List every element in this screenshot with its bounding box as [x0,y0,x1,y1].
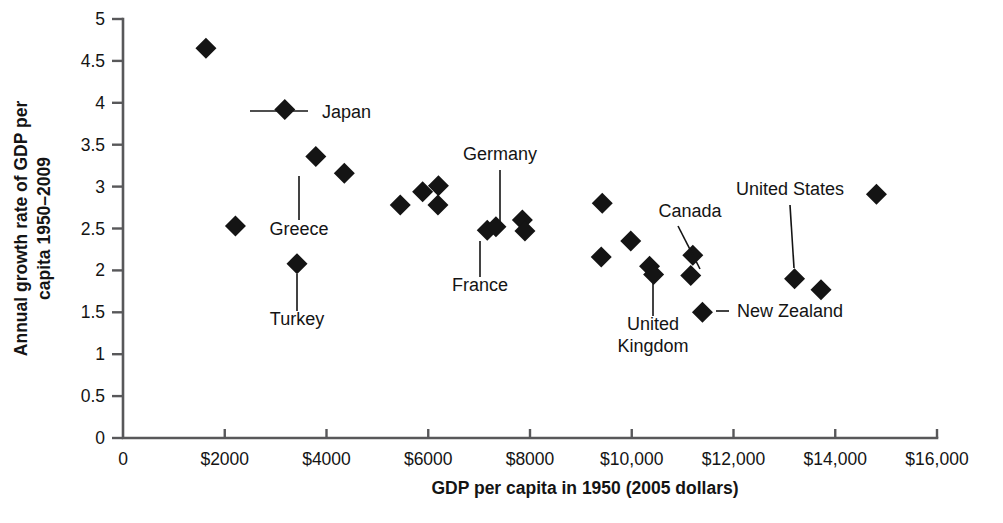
y-tick-label: 1 [95,344,105,364]
y-tick-label: 4 [95,93,105,113]
y-tick-label: 5 [95,9,105,29]
y-tick-label: 0 [95,428,105,448]
x-tick-label: $14,000 [804,449,868,469]
scatter-chart-figure: 00.511.522.533.544.550$2000$4000$6000$80… [0,0,1003,523]
data-point-marker [692,302,713,323]
y-tick-label: 4.5 [81,51,105,71]
x-tick-label: $16,000 [905,449,969,469]
x-tick-label: 0 [118,449,128,469]
data-point-marker [225,215,246,236]
annotation-label: Kingdom [617,336,688,356]
data-point-marker [305,146,326,167]
point-annotations-group: JapanGreeceTurkeyGermanyFranceCanadaUnit… [250,102,844,356]
data-point-marker [784,268,805,289]
annotation-label: Greece [269,219,328,239]
data-point-marker [680,265,701,286]
chart-canvas: 00.511.522.533.544.550$2000$4000$6000$80… [0,0,1003,523]
annotation-label: Japan [322,102,371,122]
y-tick-label: 3.5 [81,135,105,155]
data-point-marker [195,38,216,59]
data-point-marker [592,193,613,214]
data-point-marker [866,184,887,205]
y-tick-label: 0.5 [81,386,105,406]
x-tick-label: $12,000 [702,449,766,469]
annotation-leader-line [790,205,794,268]
annotation-label: United States [736,179,844,199]
data-point-marker [390,195,411,216]
y-tick-label: 2 [95,260,105,280]
data-point-marker [620,231,641,252]
annotation-label: Turkey [270,309,324,329]
y-tick-label: 2.5 [81,219,105,239]
data-point-marker [811,279,832,300]
annotation-leader-line [678,226,700,269]
data-point-marker [334,163,355,184]
data-point-marker [427,195,448,216]
annotation-label: New Zealand [737,301,843,321]
data-point-marker [286,253,307,274]
y-tick-label: 3 [95,177,105,197]
annotation-label: France [452,275,508,295]
y-axis-title-line-2: capita 1950–2009 [34,157,54,300]
annotation-label: Canada [658,201,722,221]
x-tick-label: $10,000 [600,449,664,469]
x-tick-label: $6000 [404,449,453,469]
x-tick-label: $8000 [506,449,555,469]
y-axis-title-line-1: Annual growth rate of GDP per [11,101,31,357]
x-tick-label: $2000 [200,449,249,469]
data-point-marker [274,99,295,120]
y-tick-label: 1.5 [81,302,105,322]
x-tick-label: $4000 [302,449,351,469]
annotation-label: United [627,314,679,334]
data-point-marker [591,246,612,267]
x-axis-title: GDP per capita in 1950 (2005 dollars) [431,478,738,498]
annotation-label: Germany [463,144,537,164]
